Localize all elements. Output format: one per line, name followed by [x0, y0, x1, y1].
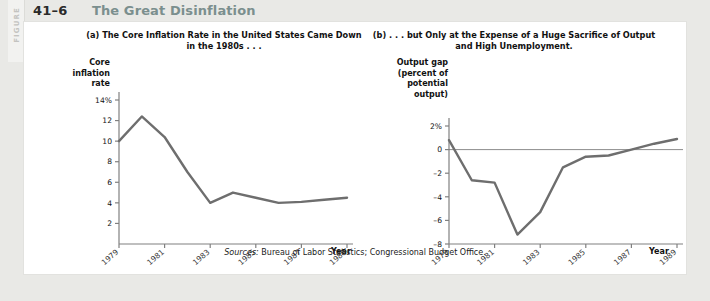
- svg-text:10: 10: [102, 137, 112, 146]
- figure-word-label: FIGURE: [13, 3, 21, 47]
- figure-number: 41–6: [33, 3, 67, 18]
- svg-text:12: 12: [102, 116, 112, 125]
- figure-card: (a) The Core Inflation Rate in the Unite…: [24, 22, 686, 274]
- panel-b-svg: –8–6–4–202%197919811983198519871989: [346, 22, 686, 274]
- figure-title: The Great Disinflation: [92, 3, 256, 18]
- svg-text:0: 0: [437, 145, 442, 154]
- source-note: Sources: Bureau of Labor Statistics; Con…: [24, 248, 686, 257]
- svg-text:8: 8: [107, 157, 112, 166]
- svg-text:6: 6: [107, 178, 112, 187]
- panel-a-svg: 2468101214%197919811983198519871989: [24, 22, 364, 274]
- figure-side-tab: FIGURE: [8, 0, 25, 62]
- svg-text:2: 2: [107, 219, 112, 228]
- svg-text:–4: –4: [433, 193, 442, 202]
- svg-text:–6: –6: [433, 216, 442, 225]
- svg-text:14%: 14%: [95, 96, 112, 105]
- svg-text:2%: 2%: [430, 122, 442, 131]
- source-text: Bureau of Labor Statistics; Congressiona…: [259, 248, 486, 257]
- figure-container: FIGURE 41–6 The Great Disinflation (a) T…: [0, 0, 710, 301]
- panel-a-chart: 2468101214%197919811983198519871989: [24, 22, 364, 274]
- svg-text:4: 4: [107, 199, 112, 208]
- figure-header: FIGURE 41–6 The Great Disinflation: [0, 0, 710, 22]
- svg-text:–2: –2: [433, 169, 442, 178]
- panel-b-chart: –8–6–4–202%197919811983198519871989: [346, 22, 686, 274]
- source-label: Sources:: [224, 248, 259, 257]
